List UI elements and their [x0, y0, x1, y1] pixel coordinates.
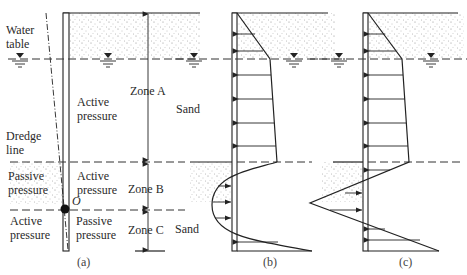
- sheet-pile-wall-b: [232, 13, 237, 251]
- active-pressure-mid-2: pressure: [77, 183, 117, 197]
- sand-label-upper: Sand: [176, 102, 200, 116]
- sheet-pile-wall-a: [63, 13, 69, 251]
- passive-pressure-lower-2: pressure: [76, 228, 116, 242]
- dredge-line-label: Dredge: [6, 129, 41, 143]
- passive-pressure-lower: Passive: [76, 214, 112, 228]
- water-table-label-2: table: [6, 37, 29, 51]
- active-pressure-mid: Active: [77, 169, 109, 183]
- sand-backfill-a: [70, 13, 200, 58]
- caption-a: (a): [77, 255, 90, 269]
- sheet-pile-diagram: O Water table Dredge line Active pressur…: [0, 0, 467, 275]
- dredge-line-label-2: line: [6, 143, 24, 157]
- sand-label-lower: Sand: [175, 222, 199, 236]
- zone-b-label: Zone B: [128, 182, 164, 196]
- caption-b: (b): [263, 255, 277, 269]
- pivot-point-o: [61, 205, 70, 214]
- caption-c: (c): [399, 255, 412, 269]
- zone-a-label: Zone A: [130, 84, 166, 98]
- panel-b: (b): [175, 13, 345, 269]
- passive-pressure-left: Passive: [8, 169, 44, 183]
- active-pressure-lower-2: pressure: [10, 228, 50, 242]
- zone-c-label: Zone C: [128, 223, 164, 237]
- active-pressure-lower: Active: [10, 214, 42, 228]
- water-table-marker-icon: [12, 53, 28, 67]
- active-pressure-upper-2: pressure: [77, 109, 117, 123]
- passive-pressure-left-2: pressure: [8, 183, 48, 197]
- water-table-label: Water: [6, 23, 34, 37]
- active-pressure-upper: Active: [77, 95, 109, 109]
- sheet-pile-wall-c: [363, 13, 368, 251]
- panel-a: O Water table Dredge line Active pressur…: [6, 13, 200, 269]
- sand-dredge-b: [190, 162, 232, 202]
